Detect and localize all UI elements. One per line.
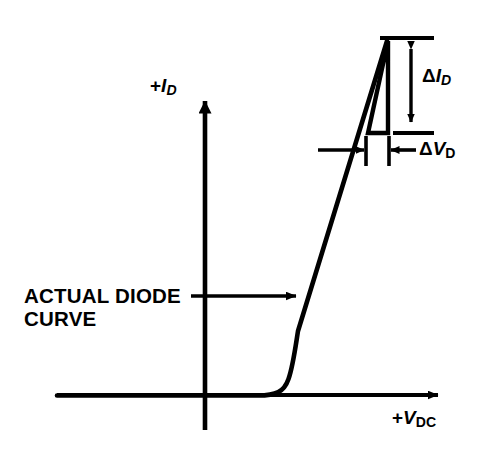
x-axis-label-symbol: V [403, 407, 416, 428]
delta-vd-symbol: Δ [419, 138, 433, 159]
delta-id-subscript: D [441, 72, 451, 88]
diode-characteristic-drawing [0, 0, 481, 458]
delta-vd-subscript: D [445, 145, 455, 161]
delta-id-label: ΔID [422, 65, 451, 89]
x-axis-label: +VDC [392, 407, 436, 431]
x-axis-label-subscript: DC [416, 414, 436, 430]
diode-curve-path [57, 41, 387, 396]
x-axis-label-prefix: + [392, 407, 403, 428]
delta-id-symbol: Δ [422, 65, 436, 86]
actual-diode-curve-label: ACTUAL DIODECURVE [24, 285, 181, 331]
y-axis-label-subscript: D [166, 82, 176, 98]
callout-line-1: ACTUAL DIODE [24, 284, 181, 307]
diode-curve-figure: ACTUAL DIODECURVE +ID +VDC ΔID ΔVD [0, 0, 481, 458]
delta-vd-variable: V [433, 138, 446, 159]
callout-line-2: CURVE [24, 307, 96, 330]
y-axis-label: +ID [150, 75, 177, 99]
delta-vd-label: ΔVD [419, 138, 456, 162]
y-axis-label-prefix: + [150, 75, 161, 96]
